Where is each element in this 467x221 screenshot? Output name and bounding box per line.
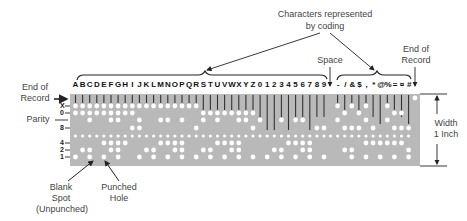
- blank-spot-arrow: [68, 161, 93, 181]
- diagram-lines: [0, 0, 467, 221]
- brace-special: [337, 71, 411, 80]
- punched-hole-arrow: [105, 161, 119, 181]
- punched-holes: [73, 96, 417, 160]
- brace-alphanumeric: [77, 71, 327, 80]
